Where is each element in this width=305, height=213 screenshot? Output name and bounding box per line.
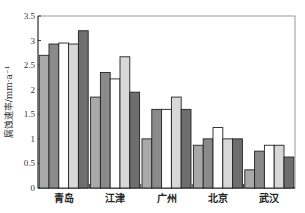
- bar-series-5: [78, 31, 88, 188]
- bar-series-4: [120, 57, 130, 188]
- bar-series-3: [213, 128, 223, 188]
- bar-series-2: [203, 139, 213, 188]
- x-category-label: 江津: [105, 192, 125, 204]
- x-category-label: 武汉: [259, 192, 280, 204]
- bar-series-5: [284, 157, 294, 188]
- bar-series-4: [69, 44, 79, 188]
- bar-series-2: [152, 109, 162, 188]
- y-tick-label: 3.5: [24, 11, 36, 21]
- bar-series-3: [59, 43, 69, 188]
- y-tick-label: 1: [31, 134, 36, 144]
- bar-series-3: [264, 145, 274, 188]
- bar-series-5: [233, 139, 243, 188]
- bar-series-1: [245, 170, 255, 188]
- y-tick-label: 0.5: [24, 158, 36, 168]
- y-tick-label: 2: [31, 85, 36, 95]
- bar-series-5: [181, 109, 191, 188]
- bar-series-3: [162, 109, 172, 188]
- bar-series-4: [274, 145, 284, 188]
- bar-series-1: [91, 97, 101, 188]
- y-tick-label: 2.5: [24, 60, 36, 70]
- bar-chart: 00.511.522.533.5 青岛江津广州北京武汉 腐蚀速率/mm·a⁻¹: [0, 0, 305, 213]
- bar-series-1: [39, 55, 49, 188]
- bar-series-1: [193, 145, 203, 188]
- x-category-label: 广州: [157, 192, 177, 204]
- bar-series-2: [255, 151, 265, 188]
- bar-series-2: [100, 73, 110, 188]
- y-tick-label: 1.5: [24, 109, 36, 119]
- bars: [39, 31, 294, 188]
- bar-series-2: [49, 44, 59, 188]
- x-category-label: 北京: [208, 192, 228, 204]
- x-category-label: 青岛: [54, 192, 74, 204]
- y-tick-label: 3: [31, 36, 36, 46]
- bar-series-3: [110, 79, 120, 188]
- y-tick-label: 0: [31, 183, 36, 193]
- bar-series-4: [223, 139, 233, 188]
- y-axis-label: 腐蚀速率/mm·a⁻¹: [3, 66, 14, 139]
- bar-series-1: [142, 139, 152, 188]
- bar-series-4: [171, 97, 181, 188]
- bar-series-5: [130, 92, 140, 188]
